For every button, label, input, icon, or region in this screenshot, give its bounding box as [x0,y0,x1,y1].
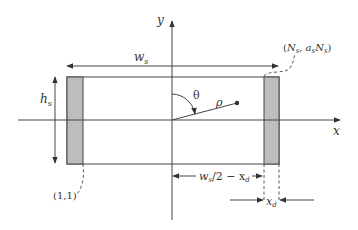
point-marker [235,101,239,105]
bottom-left-label: (1,1) [53,190,77,201]
inner-distance-label: ws/2 − xd [199,170,250,184]
detector-geometry-diagram: x y ws hs θ ρ (1,1) (Ns, asNs) ws/2 − xd… [0,0,358,230]
height-label: hs [40,92,52,108]
bottom-left-leader [77,164,83,194]
top-right-label: (Ns, asNs) [283,42,332,55]
top-right-leader [264,54,295,76]
rho-label: ρ [215,96,223,109]
y-axis-label: y [156,13,164,27]
width-label: ws [134,50,148,66]
theta-label: θ [193,89,200,102]
detector-width-label: xd [266,195,277,209]
theta-arc [172,94,195,114]
rho-line [172,103,237,120]
x-axis-label: x [333,124,340,138]
